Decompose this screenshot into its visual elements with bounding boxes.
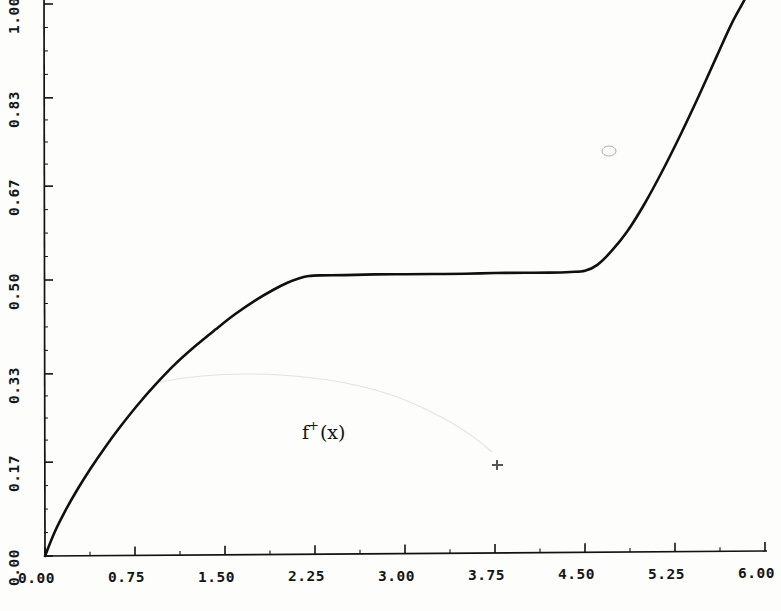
y-axis-tick-label: 0.67 xyxy=(6,179,22,216)
axis-lines xyxy=(44,0,767,556)
x-axis-tick-label: 4.50 xyxy=(558,566,595,582)
y-axis-tick-label: 1.00 xyxy=(6,0,22,34)
curve-label-argument: (x) xyxy=(320,421,346,443)
y-axis-line xyxy=(44,0,45,556)
y-axis-tick-label: 0.17 xyxy=(6,455,22,492)
x-axis-tick-label: 3.00 xyxy=(378,568,415,584)
x-axis-tick-label: 0.00 xyxy=(18,570,55,586)
scan-artifact-speck xyxy=(492,460,503,470)
data-curve-f-plus xyxy=(45,0,751,556)
x-axis-tick-label: 6.00 xyxy=(738,565,775,581)
x-axis-tick-label: 0.75 xyxy=(108,569,145,585)
x-axis-tick-label: 3.75 xyxy=(468,567,505,583)
y-axis-tick-label: 0.83 xyxy=(6,91,22,128)
chart-figure: 0.000.170.330.500.670.831.00 0.000.751.5… xyxy=(0,0,781,611)
x-axis-tick-label: 2.25 xyxy=(288,568,325,584)
x-axis-tick-label: 1.50 xyxy=(198,569,235,585)
scan-artifact-smudge xyxy=(602,146,616,156)
plot-canvas xyxy=(0,0,781,611)
curve-label-f-plus-of-x: f+(x) xyxy=(302,420,346,443)
x-axis-tick-label: 5.25 xyxy=(648,566,685,582)
curve-label-superscript: + xyxy=(308,418,319,433)
x-axis-line xyxy=(45,551,767,556)
y-axis-tick-label: 0.33 xyxy=(6,367,22,404)
y-axis-tick-label: 0.50 xyxy=(6,273,22,310)
